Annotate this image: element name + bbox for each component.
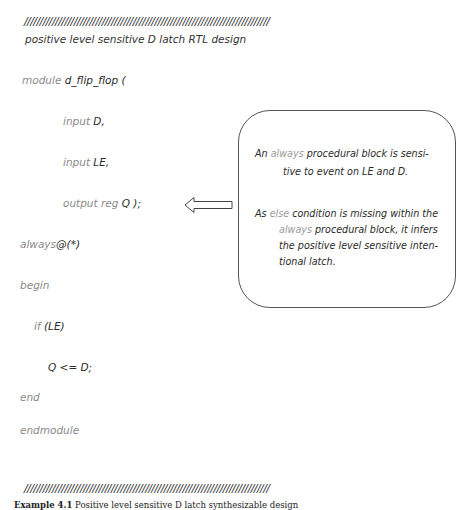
note-text: procedural block is sensi- xyxy=(304,148,429,159)
design-title-comment: positive level sensitive D latch RTL des… xyxy=(25,33,246,45)
callout-note-latch-line4: tional latch. xyxy=(279,256,336,267)
condition: (LE) xyxy=(44,320,65,332)
note-text: procedural block, it infers xyxy=(312,224,438,235)
sensitivity-list: @(*) xyxy=(56,238,80,250)
code-line-begin: begin xyxy=(20,279,49,291)
keyword: always xyxy=(20,238,56,250)
keyword: module xyxy=(22,74,61,86)
keyword-always: always xyxy=(279,224,312,235)
caption-text: Positive level sensitive D latch synthes… xyxy=(75,500,298,510)
code-line-input-le: input LE, xyxy=(63,156,109,168)
keyword-else: else xyxy=(270,208,289,219)
caption-label: Example 4.1 xyxy=(14,500,72,510)
keyword: begin xyxy=(20,279,49,291)
code-line-assign: Q <= D; xyxy=(48,361,92,373)
keyword: input xyxy=(63,115,90,127)
assignment: Q <= D; xyxy=(48,361,92,373)
port-name: Q ); xyxy=(122,197,141,209)
keyword: if xyxy=(34,320,41,332)
note-text: condition is missing within the xyxy=(289,208,438,219)
keyword: endmodule xyxy=(20,424,79,436)
note-text: An xyxy=(255,148,271,159)
keyword: end xyxy=(20,391,40,403)
code-line-endmodule: endmodule xyxy=(20,424,79,436)
code-line-input-d: input D, xyxy=(63,115,105,127)
module-name: d_flip_flop ( xyxy=(65,74,126,86)
keyword: output reg xyxy=(63,197,118,209)
figure-caption: Example 4.1 Positive level sensitive D l… xyxy=(14,500,298,510)
footer-comment-slashes: ////////////////////////////////////////… xyxy=(24,482,269,495)
code-line-module: module d_flip_flop ( xyxy=(22,74,126,86)
header-comment-slashes: ////////////////////////////////////////… xyxy=(24,15,269,28)
code-line-end: end xyxy=(20,391,40,403)
callout-note-latch-line3: the positive level sensitive inten- xyxy=(279,240,438,251)
keyword: input xyxy=(63,156,90,168)
left-arrow-icon xyxy=(184,196,234,214)
callout-note-latch-inference: As else condition is missing within the xyxy=(255,208,438,219)
code-line-always: always@(*) xyxy=(20,238,80,250)
callout-note-sensitivity: An always procedural block is sensi- xyxy=(255,148,429,159)
keyword-always: always xyxy=(271,148,304,159)
note-text: As xyxy=(255,208,270,219)
port-name: LE, xyxy=(93,156,109,168)
callout-note-latch-line2: always procedural block, it infers xyxy=(279,224,438,235)
callout-note-sensitivity-cont: tive to event on LE and D. xyxy=(283,166,408,177)
code-line-output-q: output reg Q ); xyxy=(63,197,141,209)
port-name: D, xyxy=(93,115,104,127)
code-line-if: if (LE) xyxy=(34,320,65,332)
